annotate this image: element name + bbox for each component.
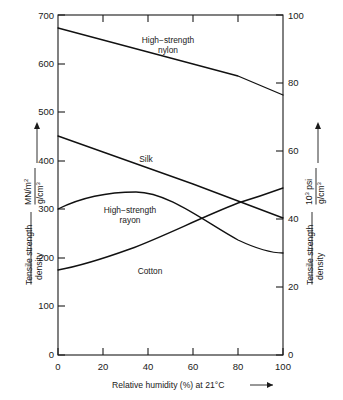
y-left-tick-label-0: 0 [49, 349, 54, 360]
y-left-tick-label-500: 500 [38, 106, 54, 117]
series-curve-silk [58, 136, 283, 218]
y-right-tick-label-20: 20 [288, 281, 299, 292]
y-right-units-den-sup: 3 [316, 181, 322, 185]
y-left-units-den-text: g/cm [35, 185, 45, 204]
x-axis-arrow-icon [267, 382, 273, 388]
y-left-tick-label-400: 400 [38, 155, 54, 166]
series-label-cotton: Cotton [138, 266, 163, 276]
y-left-units-den-sup: 3 [35, 181, 41, 185]
y-right-tick-label-100: 100 [288, 10, 304, 21]
y-left-label-main: Tensile strength [24, 225, 34, 285]
y-right-units-den-text: g/cm [316, 185, 326, 204]
chart-svg: 0 100 200 300 400 500 600 700 0 20 40 60… [0, 0, 343, 400]
y-axis-left-ticks [58, 15, 65, 355]
y-right-axis-arrow-icon [315, 122, 321, 129]
chart-figure: 0 100 200 300 400 500 600 700 0 20 40 60… [0, 0, 343, 400]
x-tick-label-100: 100 [275, 361, 291, 372]
y-left-units-den: g/cm3 [35, 181, 45, 204]
y-right-label-denom: density [315, 252, 325, 280]
y-left-label-denom: density [34, 252, 44, 280]
x-tick-label-20: 20 [98, 361, 109, 372]
y-axis-right-ticks [276, 15, 283, 355]
y-left-units-num-sup: 2 [23, 178, 29, 182]
y-right-tick-label-80: 80 [288, 77, 299, 88]
series-label-rayon-line1: High−strength [104, 205, 157, 215]
series-label-silk: Silk [139, 154, 153, 164]
series-label-nylon-line1: High−strength [142, 35, 195, 45]
x-tick-label-60: 60 [188, 361, 199, 372]
series-label-rayon-line2: rayon [120, 215, 141, 225]
y-axis-right-label-group: Tensile strength density 103 psi g/cm3 [304, 122, 326, 285]
y-right-tick-label-60: 60 [288, 145, 299, 156]
x-tick-label-40: 40 [143, 361, 154, 372]
series-label-nylon-line2: nylon [158, 45, 178, 55]
x-axis-label-group: Relative humidity (%) at 21°C [112, 380, 273, 390]
y-right-label-main: Tensile strength [305, 225, 315, 285]
series-curve-rayon [58, 192, 283, 253]
y-left-units-num: MN/m2 [23, 178, 33, 205]
x-axis-label-text: Relative humidity (%) at 21°C [112, 380, 224, 390]
x-axis-label: Relative humidity (%) at 21°C [112, 380, 224, 390]
x-tick-label-0: 0 [55, 361, 60, 372]
y-right-units-num: 103 psi [304, 179, 314, 205]
y-left-tick-label-700: 700 [38, 10, 54, 21]
y-left-units-num-text: MN/m [23, 182, 33, 205]
y-right-units-den: g/cm3 [316, 181, 326, 204]
y-right-tick-label-0: 0 [288, 349, 293, 360]
x-axis-ticks [58, 348, 283, 355]
y-right-tick-label-40: 40 [288, 213, 299, 224]
y-left-axis-arrow-icon [34, 122, 40, 129]
x-tick-label-80: 80 [233, 361, 244, 372]
y-left-tick-label-600: 600 [38, 58, 54, 69]
y-left-tick-label-100: 100 [38, 300, 54, 311]
plot-frame [58, 15, 283, 355]
y-right-units-num-text: 10 [304, 195, 314, 205]
y-right-units-num-tail: psi [304, 179, 314, 192]
y-axis-left-label-group: Tensile strength density MN/m2 g/cm3 [23, 122, 45, 285]
x-axis-ticks-top [103, 15, 238, 22]
